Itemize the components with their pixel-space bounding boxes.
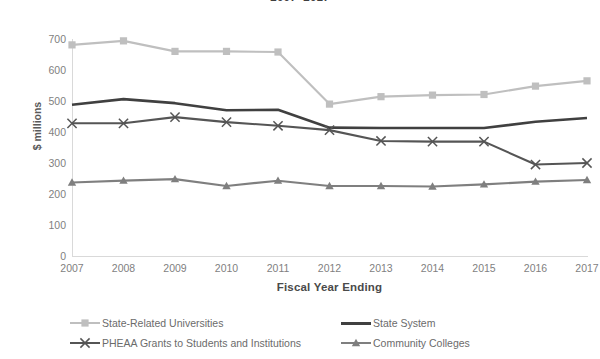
- legend-item-label: PHEAA Grants to Students and Institution…: [102, 337, 301, 350]
- legend-item[interactable]: State System: [341, 314, 435, 332]
- series-2: [67, 113, 591, 170]
- data-point-marker: [68, 41, 75, 48]
- legend-item[interactable]: PHEAA Grants to Students and Institution…: [70, 334, 301, 352]
- data-point-marker: [480, 91, 487, 98]
- line-chart: 2007–2017 7006005004003002001000 $ milli…: [0, 0, 600, 359]
- data-point-marker: [120, 37, 127, 44]
- legend-item-label: State-Related Universities: [102, 317, 223, 330]
- legend-item[interactable]: Community Colleges: [341, 334, 470, 352]
- data-point-marker: [377, 93, 384, 100]
- legend-item-label: State System: [373, 317, 435, 330]
- data-point-marker: [223, 48, 230, 55]
- legend-marker-icon: [70, 316, 100, 330]
- legend-marker-icon: [341, 316, 371, 330]
- legend-item-label: Community Colleges: [373, 337, 470, 350]
- data-point-marker: [583, 77, 590, 84]
- legend-marker-icon: [70, 336, 100, 350]
- data-point-marker: [429, 92, 436, 99]
- legend-item[interactable]: State-Related Universities: [70, 314, 223, 332]
- data-point-marker: [171, 48, 178, 55]
- series-3: [68, 175, 591, 190]
- series-line: [72, 41, 587, 104]
- legend-marker-icon: [341, 336, 371, 350]
- data-point-marker: [274, 48, 281, 55]
- series-0: [68, 37, 590, 107]
- data-point-marker: [326, 101, 333, 108]
- series-plot-area: [0, 0, 600, 359]
- data-point-marker: [532, 83, 539, 90]
- chart-legend: State-Related UniversitiesState SystemPH…: [56, 314, 576, 356]
